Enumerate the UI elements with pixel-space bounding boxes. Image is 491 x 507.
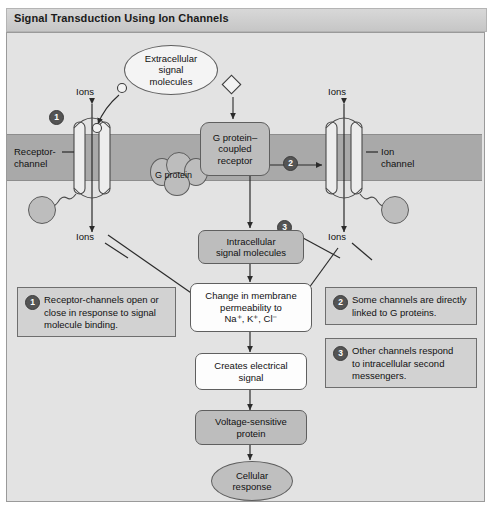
g-protein-label: G protein <box>155 170 192 182</box>
gpcr-label: G protein– coupled receptor <box>213 132 257 167</box>
page-title: Signal Transduction Using Ion Channels <box>14 12 229 24</box>
note-2-text: Some channels are directly linked to G p… <box>352 294 467 319</box>
ions-top-right-label: Ions <box>328 86 346 98</box>
electrical-signal-box: Creates electrical signal <box>195 353 307 390</box>
extracellular-signal-label: Extracellular signal molecules <box>145 53 197 88</box>
electrical-signal-label: Creates electrical signal <box>214 360 287 383</box>
receptor-channel-label: Receptor- channel <box>14 146 56 169</box>
note-1-badge: 1 <box>25 295 40 310</box>
gpcr-shape: G protein– coupled receptor <box>200 122 270 176</box>
cellular-response-ellipse: Cellular response <box>211 461 293 501</box>
note-2: 2 Some channels are directly linked to G… <box>325 287 477 325</box>
ion-channel-label: Ion channel <box>381 146 414 169</box>
figure-root: Signal Transduction Using Ion Channels <box>0 0 491 507</box>
voltage-sensitive-box: Voltage-sensitive protein <box>195 410 307 445</box>
ions-top-left-label: Ions <box>76 86 94 98</box>
note-2-badge: 2 <box>333 295 348 310</box>
voltage-sensitive-label: Voltage-sensitive protein <box>215 416 287 439</box>
permeability-label: Change in membrane permeability to Na⁺, … <box>205 290 296 325</box>
note-3-text: Other channels respond to intracellular … <box>352 345 453 383</box>
ions-bottom-right-label: Ions <box>328 231 346 243</box>
intracellular-signal-box: Intracellular signal molecules <box>198 230 304 264</box>
badge-1-diagram: 1 <box>49 110 64 125</box>
permeability-box: Change in membrane permeability to Na⁺, … <box>190 283 312 332</box>
left-channel-tail-ball <box>28 196 56 224</box>
note-3: 3 Other channels respond to intracellula… <box>325 338 477 388</box>
note-3-badge: 3 <box>333 346 348 361</box>
cellular-response-label: Cellular response <box>232 470 271 493</box>
intracellular-signal-label: Intracellular signal molecules <box>216 236 286 259</box>
right-channel-tail-ball <box>381 196 409 224</box>
note-1-text: Receptor-channels open or close in respo… <box>44 294 159 332</box>
badge-2-diagram: 2 <box>283 156 298 171</box>
ions-bottom-left-label: Ions <box>76 231 94 243</box>
extracellular-signal-bubble: Extracellular signal molecules <box>124 45 218 95</box>
note-1: 1 Receptor-channels open or close in res… <box>17 287 176 337</box>
